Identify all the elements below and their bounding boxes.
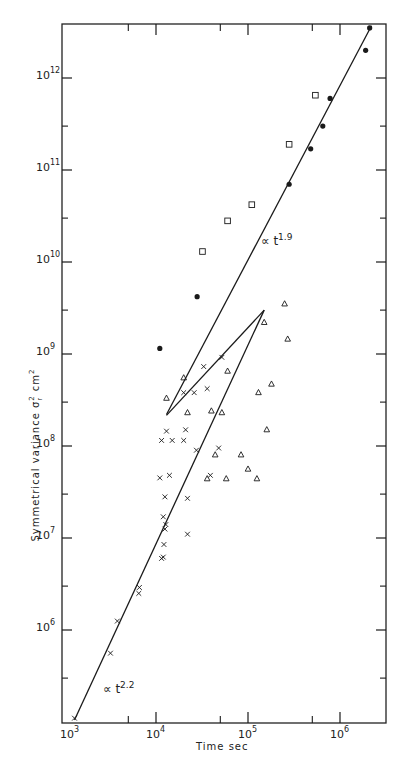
point-open-triangle	[238, 452, 244, 457]
point-cross	[170, 438, 175, 443]
fit-line	[166, 26, 371, 415]
x-axis-title: Time sec	[196, 741, 249, 752]
point-open-triangle	[212, 452, 218, 457]
point-open-triangle	[209, 408, 215, 413]
y-tick-label: 1010	[36, 251, 60, 266]
point-cross	[115, 619, 120, 624]
x-tick-label: 103	[60, 726, 79, 741]
x-tick-label: 105	[238, 726, 257, 741]
point-open-triangle	[245, 466, 251, 471]
fit-label-t22: ∝ t2.2	[103, 680, 134, 696]
point-open-square	[200, 249, 206, 255]
x-tick-label: 104	[146, 726, 165, 741]
point-open-square	[286, 142, 292, 148]
point-open-triangle	[285, 336, 291, 341]
point-open-square	[313, 92, 319, 98]
point-open-triangle	[223, 476, 229, 481]
point-open-square	[249, 202, 255, 208]
point-cross	[163, 494, 168, 499]
point-cross	[192, 390, 197, 395]
point-cross	[108, 651, 113, 656]
point-cross	[201, 364, 206, 369]
point-open-triangle	[225, 368, 231, 373]
point-filled-circle	[320, 124, 325, 129]
point-cross	[159, 438, 164, 443]
point-open-triangle	[164, 395, 170, 400]
point-cross	[161, 514, 166, 519]
point-cross	[136, 591, 141, 596]
point-cross	[185, 532, 190, 537]
chart-plot	[0, 0, 407, 767]
fit-label-t19: ∝ t1.9	[261, 232, 292, 248]
point-open-triangle	[261, 319, 267, 324]
y-tick-label: 1011	[36, 159, 60, 174]
point-open-triangle	[264, 427, 270, 432]
x-tick-label: 106	[330, 726, 349, 741]
y-axis-title: Symmetrical variance σr2 cm2	[28, 368, 43, 541]
point-filled-circle	[363, 48, 368, 53]
point-cross	[205, 386, 210, 391]
point-cross	[181, 390, 186, 395]
point-open-triangle	[254, 476, 260, 481]
point-cross	[167, 473, 172, 478]
y-tick-label: 109	[36, 343, 55, 358]
point-filled-circle	[367, 25, 372, 30]
point-filled-circle	[157, 346, 162, 351]
point-cross	[194, 448, 199, 453]
point-cross	[164, 429, 169, 434]
point-filled-circle	[308, 146, 313, 151]
point-open-triangle	[269, 381, 275, 386]
point-cross	[185, 496, 190, 501]
point-cross	[216, 446, 221, 451]
point-filled-circle	[195, 294, 200, 299]
point-open-triangle	[185, 410, 191, 415]
axis-ticks	[62, 24, 386, 723]
point-open-square	[225, 218, 231, 224]
fit-line	[74, 310, 264, 720]
point-open-triangle	[256, 389, 262, 394]
point-cross	[137, 585, 142, 590]
data-points	[72, 25, 372, 720]
fit-line	[166, 310, 264, 415]
point-open-triangle	[282, 301, 288, 306]
point-cross	[161, 555, 166, 560]
point-cross	[162, 542, 167, 547]
point-filled-circle	[287, 182, 292, 187]
y-tick-label: 106	[36, 619, 55, 634]
point-cross	[208, 473, 213, 478]
point-cross	[183, 427, 188, 432]
point-open-triangle	[219, 410, 225, 415]
point-cross	[181, 438, 186, 443]
fit-lines	[74, 26, 371, 720]
plot-frame	[62, 24, 386, 723]
point-cross	[157, 476, 162, 481]
y-tick-label: 1012	[36, 67, 60, 82]
point-filled-circle	[327, 96, 332, 101]
